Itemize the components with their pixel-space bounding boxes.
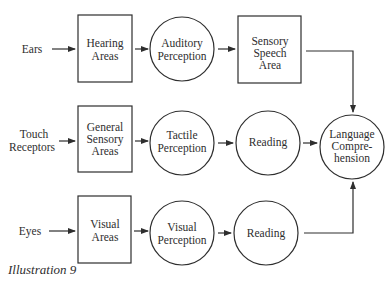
tactile-perception-label-2: Perception (157, 142, 206, 155)
flow-diagram: Ears Touch Receptors Eyes Hearing Areas … (0, 0, 390, 284)
node-auditory-perception-circle (150, 17, 214, 81)
auditory-perception-label-1: Auditory (161, 37, 203, 50)
general-sensory-label-3: Areas (92, 145, 119, 157)
general-sensory-label-1: General (87, 121, 123, 133)
input-touch-label-2: Receptors (9, 141, 56, 154)
sensory-speech-label-3: Area (259, 59, 281, 71)
arrow-speech-to-language (306, 51, 353, 112)
node-visual-perception-circle (150, 201, 214, 265)
tactile-perception-label-1: Tactile (166, 129, 197, 141)
diagram-canvas: Ears Touch Receptors Eyes Hearing Areas … (0, 0, 390, 284)
visual-perception-label-2: Perception (157, 234, 206, 247)
reading-tactile-label: Reading (249, 136, 288, 149)
figure-caption: Illustration 9 (8, 262, 76, 278)
visual-areas-label-1: Visual (90, 218, 119, 230)
visual-areas-label-2: Areas (92, 231, 119, 243)
auditory-perception-label-2: Perception (157, 50, 206, 63)
hearing-areas-label-1: Hearing (86, 37, 123, 50)
reading-visual-label: Reading (247, 227, 286, 240)
language-comprehension-label-3: hension (334, 152, 370, 164)
input-eyes-label: Eyes (19, 225, 42, 238)
hearing-areas-label-2: Areas (92, 50, 119, 62)
visual-perception-label-1: Visual (167, 221, 196, 233)
arrow-reading-visual-to-language (304, 182, 353, 233)
input-touch-label-1: Touch (20, 128, 49, 140)
input-ears-label: Ears (22, 43, 43, 55)
